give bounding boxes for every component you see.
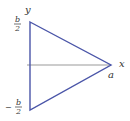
bottom-numerator: b bbox=[16, 98, 21, 107]
top-numerator: b bbox=[15, 15, 20, 24]
triangle bbox=[30, 22, 111, 110]
bottom-vertex-label: − b 2 bbox=[5, 98, 22, 116]
bottom-denominator: 2 bbox=[15, 107, 21, 116]
top-denominator: 2 bbox=[14, 24, 20, 33]
diagram-canvas: y x a b 2 − b 2 bbox=[0, 0, 130, 121]
x-axis-label: x bbox=[119, 58, 125, 69]
bottom-sign: − bbox=[5, 103, 12, 112]
y-axis-label: y bbox=[24, 4, 31, 15]
apex-label: a bbox=[108, 69, 114, 80]
top-vertex-label: b 2 bbox=[14, 15, 21, 33]
